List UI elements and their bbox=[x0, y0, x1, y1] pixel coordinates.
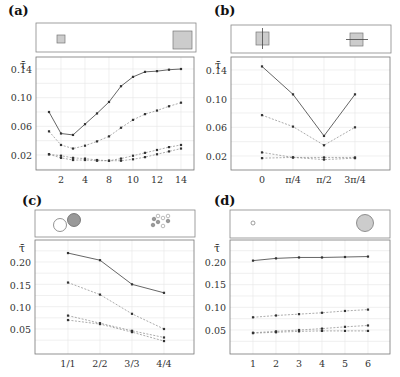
data-point bbox=[144, 71, 146, 73]
data-point bbox=[298, 330, 300, 332]
data-point bbox=[120, 127, 122, 129]
x-tick-label: π/2 bbox=[316, 174, 332, 185]
data-point bbox=[180, 144, 182, 146]
x-tick-label: 3π/4 bbox=[344, 174, 366, 185]
data-point bbox=[48, 111, 50, 113]
y-axis-label: τ̄ bbox=[19, 242, 25, 255]
data-point bbox=[131, 331, 133, 333]
series-line-dashed-3 bbox=[49, 149, 181, 161]
y-tick-label: 0.10 bbox=[206, 94, 227, 105]
series-line-dashed-2 bbox=[68, 316, 164, 338]
data-point bbox=[252, 332, 254, 334]
series-line-dashed-1 bbox=[49, 103, 181, 149]
data-point bbox=[156, 153, 158, 155]
data-point bbox=[48, 130, 50, 132]
series-line-dashed-2 bbox=[262, 152, 355, 157]
data-point bbox=[144, 152, 146, 154]
data-point bbox=[60, 144, 62, 146]
data-point bbox=[72, 134, 74, 136]
data-point bbox=[163, 340, 165, 342]
data-point bbox=[321, 328, 323, 330]
data-point bbox=[48, 153, 50, 155]
x-tick-label: 8 bbox=[106, 174, 112, 185]
gray-circle-icon bbox=[68, 214, 81, 227]
x-tick-label: 3/3 bbox=[124, 358, 139, 369]
data-point bbox=[96, 160, 98, 162]
series-line-solid bbox=[253, 257, 368, 261]
data-point bbox=[323, 135, 325, 137]
white-circle-icon bbox=[54, 219, 67, 232]
data-point bbox=[67, 319, 69, 321]
data-point bbox=[132, 155, 134, 157]
x-tick-label: 2 bbox=[273, 358, 279, 369]
x-tick-label: 3 bbox=[296, 358, 302, 369]
series-line-solid bbox=[49, 69, 181, 135]
figure-canvas: 0.020.060.100.14τ̄2481012140.020.060.100… bbox=[0, 0, 400, 377]
y-tick-label: 0.10 bbox=[205, 302, 226, 313]
data-point bbox=[344, 310, 346, 312]
data-point bbox=[120, 85, 122, 87]
x-tick-label: 5 bbox=[342, 358, 348, 369]
data-point bbox=[108, 135, 110, 137]
data-point bbox=[60, 157, 62, 159]
data-point bbox=[292, 93, 294, 95]
x-tick-label: 0 bbox=[259, 174, 265, 185]
data-point bbox=[168, 146, 170, 148]
data-point bbox=[168, 150, 170, 152]
x-tick-label: 6 bbox=[365, 358, 371, 369]
inset-b bbox=[231, 25, 391, 53]
data-point bbox=[354, 93, 356, 95]
data-point bbox=[275, 257, 277, 259]
data-point bbox=[72, 147, 74, 149]
data-point bbox=[99, 323, 101, 325]
data-point bbox=[323, 156, 325, 158]
data-point bbox=[156, 70, 158, 72]
data-point bbox=[252, 316, 254, 318]
data-point bbox=[344, 326, 346, 328]
x-tick-label: 12 bbox=[151, 174, 163, 185]
small-square-icon bbox=[57, 35, 65, 43]
y-axis-label: τ̄ bbox=[20, 59, 26, 72]
x-tick-label: 1/1 bbox=[60, 358, 75, 369]
data-point bbox=[321, 330, 323, 332]
data-point bbox=[72, 157, 74, 159]
y-tick-label: 0.05 bbox=[10, 324, 31, 335]
y-tick-label: 0.20 bbox=[205, 257, 226, 268]
series-line-solid bbox=[262, 66, 355, 136]
data-point bbox=[367, 330, 369, 332]
y-tick-label: 0.06 bbox=[206, 122, 227, 133]
data-point bbox=[132, 119, 134, 121]
y-tick-label: 0.15 bbox=[10, 280, 31, 291]
data-point bbox=[99, 259, 101, 261]
data-point bbox=[108, 160, 110, 162]
data-point bbox=[367, 324, 369, 326]
data-point bbox=[344, 256, 346, 258]
y-tick-label: 0.15 bbox=[205, 279, 226, 290]
data-point bbox=[131, 283, 133, 285]
data-point bbox=[180, 147, 182, 149]
data-point bbox=[60, 132, 62, 134]
data-point bbox=[168, 69, 170, 71]
inset-d bbox=[230, 210, 390, 238]
x-tick-label: 4 bbox=[319, 358, 325, 369]
data-point bbox=[275, 314, 277, 316]
data-point bbox=[321, 312, 323, 314]
plot-b: 0.020.060.100.14τ̄0π/4π/23π/4 bbox=[206, 57, 390, 185]
data-point bbox=[84, 123, 86, 125]
x-tick-label: 4 bbox=[82, 174, 88, 185]
data-point bbox=[84, 145, 86, 147]
data-point bbox=[67, 315, 69, 317]
series-line-dashed-2 bbox=[253, 325, 368, 332]
large-circle-icon bbox=[357, 215, 374, 232]
x-tick-label: π/4 bbox=[285, 174, 301, 185]
large-square-icon bbox=[173, 31, 192, 49]
data-point bbox=[156, 149, 158, 151]
x-tick-label: 4/4 bbox=[156, 358, 171, 369]
plot-c: 0.050.100.150.20τ̄1/12/23/34/4 bbox=[10, 240, 194, 369]
data-point bbox=[261, 114, 263, 116]
data-point bbox=[108, 101, 110, 103]
data-point bbox=[180, 102, 182, 104]
y-tick-label: 0.10 bbox=[11, 92, 32, 103]
data-point bbox=[99, 294, 101, 296]
y-tick-label: 0.02 bbox=[206, 151, 227, 162]
